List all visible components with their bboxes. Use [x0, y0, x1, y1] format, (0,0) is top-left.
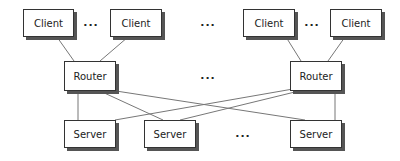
edge-client2-router1 — [100, 37, 128, 61]
ellipsis-clients-middle: ... — [200, 16, 216, 29]
node-label: Client — [342, 18, 371, 29]
edge-router1-server2 — [100, 91, 163, 120]
server-node-1: Server — [64, 120, 116, 148]
node-label: Router — [73, 71, 106, 82]
router-node-1: Router — [64, 61, 116, 91]
node-label: Server — [300, 129, 333, 140]
node-label: Router — [299, 71, 332, 82]
client-node-3: Client — [243, 9, 295, 37]
node-label: Client — [255, 18, 284, 29]
ellipsis-routers: ... — [200, 69, 216, 82]
edge-client1-router1 — [57, 37, 74, 61]
node-label: Client — [34, 18, 63, 29]
edge-router2-server1 — [115, 89, 293, 120]
server-node-2: Server — [144, 120, 196, 148]
edge-client4-router2 — [328, 37, 345, 61]
server-node-3: Server — [290, 120, 342, 148]
client-node-1: Client — [23, 9, 74, 37]
router-node-2: Router — [290, 61, 342, 91]
client-node-4: Client — [330, 9, 382, 37]
ellipsis-clients-left: ... — [83, 16, 99, 29]
edge-router1-server3 — [116, 91, 305, 120]
node-label: Server — [154, 129, 187, 140]
node-label: Client — [122, 18, 151, 29]
edge-client3-router2 — [286, 37, 301, 61]
client-node-2: Client — [110, 9, 162, 37]
node-label: Server — [74, 129, 107, 140]
ellipsis-servers: ... — [235, 127, 251, 140]
ellipsis-clients-right: ... — [304, 16, 320, 29]
